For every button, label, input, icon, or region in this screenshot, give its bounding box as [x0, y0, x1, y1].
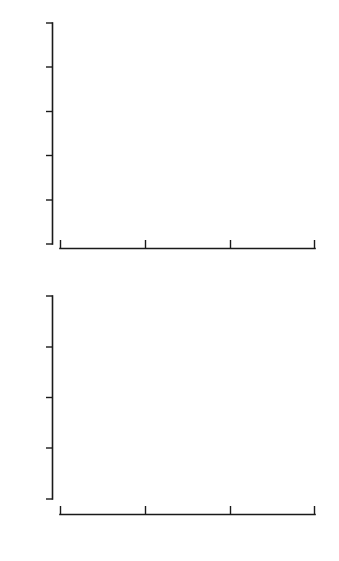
bottom-panel: [0, 0, 315, 515]
figure-canvas: [0, 0, 339, 561]
dose-response-figure: [0, 0, 339, 561]
top-panel: [0, 0, 315, 249]
